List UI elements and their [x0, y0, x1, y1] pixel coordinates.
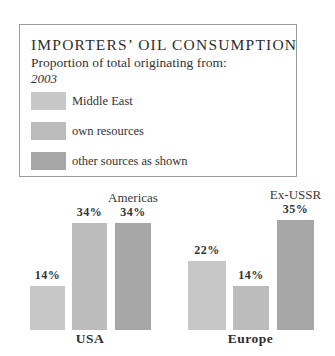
legend-item-middle-east: Middle East [31, 92, 286, 110]
legend-item-other-sources: other sources as shown [31, 152, 286, 170]
legend-label: other sources as shown [72, 154, 188, 169]
other-sources-swatch [31, 152, 66, 170]
source-label-americas: Americas [108, 191, 158, 205]
group-label-usa: USA [30, 331, 150, 347]
bar [30, 286, 65, 330]
bar-europe-own-resources: 14% [233, 269, 269, 330]
bar-usa-own-resources: 34% [72, 206, 107, 330]
bar-value-label: 22% [194, 244, 220, 257]
figure-subtitle: Proportion of total originating from: [31, 55, 286, 71]
own-resources-swatch [31, 122, 66, 140]
bar [188, 261, 226, 330]
figure-year: 2003 [31, 71, 286, 86]
bar [72, 223, 107, 330]
figure-title: IMPORTERS’ OIL CONSUMPTION [31, 36, 286, 54]
bar-value-label: 14% [35, 269, 61, 282]
bar-europe-middle-east: 22% [188, 244, 226, 330]
legend-items: Middle East own resources other sources … [31, 92, 286, 170]
middle-east-swatch [31, 92, 66, 110]
legend-label: Middle East [72, 94, 133, 109]
bar-usa-other-sources: Americas 34% [115, 191, 151, 330]
source-label-ex-ussr: Ex-USSR [270, 188, 321, 202]
bar [233, 286, 269, 330]
bar-value-label: 34% [77, 206, 103, 219]
bar-value-label: 14% [238, 269, 264, 282]
legend-label: own resources [72, 124, 144, 139]
bar [277, 220, 314, 330]
group-label-europe: Europe [188, 331, 313, 347]
legend-box: IMPORTERS’ OIL CONSUMPTION Proportion of… [19, 24, 297, 177]
bar-europe-other-sources: Ex-USSR 35% [277, 188, 314, 330]
bar-value-label: 35% [283, 203, 309, 216]
bar [115, 223, 151, 330]
oil-consumption-figure: IMPORTERS’ OIL CONSUMPTION Proportion of… [0, 0, 335, 356]
bar-value-label: 34% [120, 206, 146, 219]
bar-usa-middle-east: 14% [30, 269, 65, 330]
legend-item-own-resources: own resources [31, 122, 286, 140]
